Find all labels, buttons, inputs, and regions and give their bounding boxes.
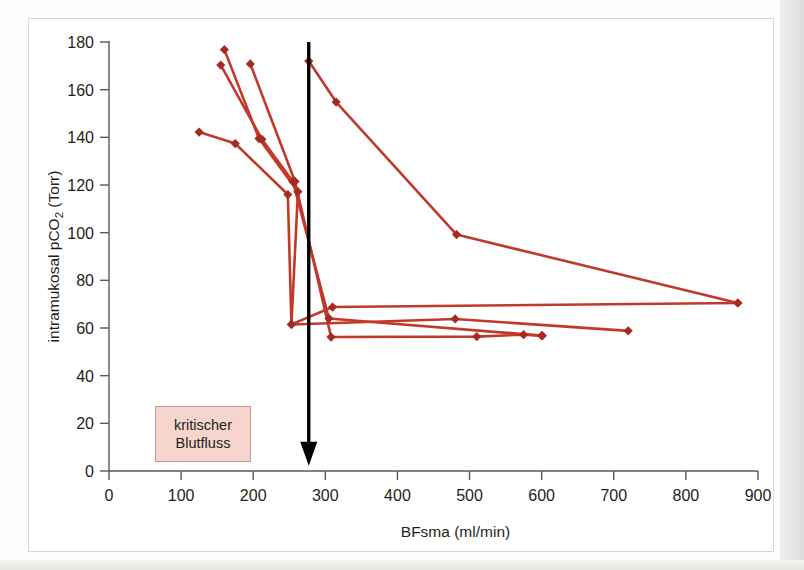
x-tick-label: 800 — [673, 487, 700, 504]
critical-flow-arrow — [300, 42, 317, 466]
data-series-group — [195, 45, 743, 342]
y-tick-label: 0 — [85, 463, 94, 480]
data-point-marker — [195, 127, 204, 136]
series-line — [199, 132, 738, 324]
x-tick-label: 100 — [168, 487, 195, 504]
series-line — [250, 64, 542, 337]
y-tick-label: 40 — [76, 368, 94, 385]
data-point-marker — [328, 302, 337, 311]
y-tick-label: 60 — [76, 320, 94, 337]
annotation-line-2: Blutfluss — [176, 434, 231, 452]
critical-blood-flow-annotation: kritischer Blutfluss — [155, 406, 251, 462]
data-point-marker — [220, 45, 229, 54]
page-edge-bottom — [0, 560, 804, 570]
y-tick-label: 80 — [76, 272, 94, 289]
x-tick-label: 400 — [384, 487, 411, 504]
data-point-marker — [287, 320, 296, 329]
series-line — [221, 65, 542, 336]
y-tick-label: 20 — [76, 415, 94, 432]
axis-titles: BFsma (ml/min)intramukosal pCO2 (Torr) — [45, 171, 510, 540]
x-tick-label: 0 — [105, 487, 114, 504]
x-tick-label: 300 — [312, 487, 339, 504]
y-tick-label: 100 — [67, 225, 94, 242]
y-tick-label: 140 — [67, 129, 94, 146]
data-point-marker — [246, 59, 255, 68]
figure-page: 0204060801001201401601800100200300400500… — [0, 0, 804, 570]
scatter-line-chart: 0204060801001201401601800100200300400500… — [29, 19, 775, 553]
data-point-marker — [624, 326, 633, 335]
annotation-line-1: kritischer — [174, 416, 232, 434]
arrow-head — [300, 442, 317, 466]
y-tick-label: 120 — [67, 177, 94, 194]
x-tick-label: 900 — [745, 487, 772, 504]
data-point-marker — [451, 314, 460, 323]
data-point-marker — [733, 298, 742, 307]
x-axis-title: BFsma (ml/min) — [401, 523, 510, 540]
x-tick-label: 700 — [600, 487, 627, 504]
x-tick-label: 500 — [456, 487, 483, 504]
series-line — [309, 61, 738, 303]
data-point-marker — [327, 332, 336, 341]
figure-panel: 0204060801001201401601800100200300400500… — [28, 18, 774, 552]
x-tick-label: 200 — [240, 487, 267, 504]
data-point-marker — [519, 330, 528, 339]
y-tick-label: 160 — [67, 82, 94, 99]
data-point-marker — [472, 332, 481, 341]
y-tick-label: 180 — [67, 34, 94, 51]
x-tick-label: 600 — [528, 487, 555, 504]
y-axis-title: intramukosal pCO2 (Torr) — [45, 171, 65, 343]
page-edge-right — [780, 0, 804, 570]
data-point-marker — [538, 331, 547, 340]
